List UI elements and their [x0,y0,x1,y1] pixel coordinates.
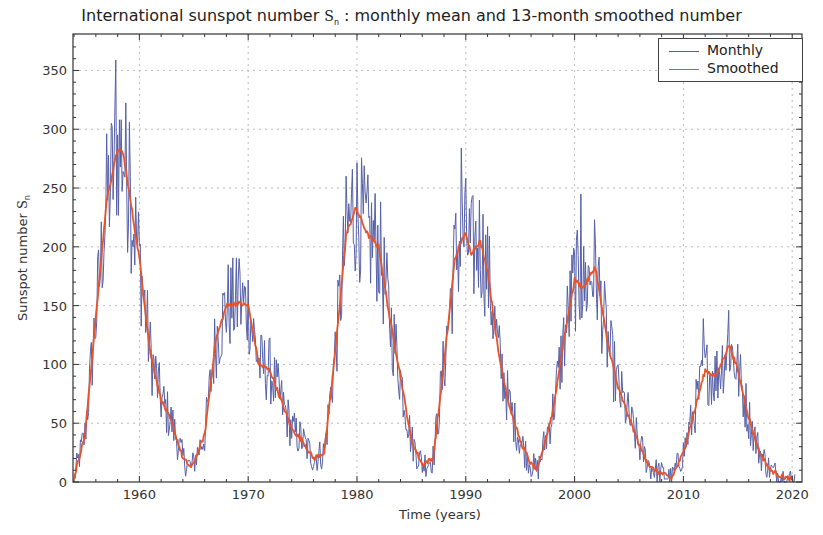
x-tick-label: 1990 [449,487,482,502]
y-tick-label: 0 [59,475,67,490]
legend: Monthly Smoothed [658,38,803,82]
legend-label-monthly: Monthly [707,42,763,58]
axis-ticks: 1960197019801990200020102020050100150200… [42,34,809,502]
x-axis-label: Time (years) [398,507,481,522]
legend-item-monthly: Monthly [659,42,802,60]
x-tick-label: 1970 [232,487,265,502]
y-tick-label: 250 [42,181,67,196]
y-tick-label: 300 [42,122,67,137]
x-tick-label: 2010 [667,487,700,502]
x-tick-label: 2020 [776,487,809,502]
y-tick-label: 50 [50,416,67,431]
y-axis-label: Sunspot number Sn [15,195,32,321]
y-tick-label: 350 [42,63,67,78]
x-tick-label: 1960 [123,487,156,502]
legend-item-smoothed: Smoothed [659,60,802,78]
monthly-series-line [74,60,795,482]
x-tick-label: 1980 [340,487,373,502]
y-tick-label: 150 [42,299,67,314]
y-tick-label: 200 [42,240,67,255]
smoothed-line-swatch-icon [669,69,699,70]
y-tick-label: 100 [42,357,67,372]
x-tick-label: 2000 [558,487,591,502]
smoothed-series-line [74,149,792,481]
legend-label-smoothed: Smoothed [707,60,779,76]
monthly-line-swatch-icon [669,51,699,52]
